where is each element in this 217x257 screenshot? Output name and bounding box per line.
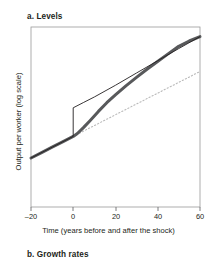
x-tick-label-20: 20 <box>101 212 131 221</box>
plot-frame <box>31 27 200 207</box>
y-axis-label: Output per worker (log scale) <box>14 42 23 202</box>
x-axis-label: Time (years before and after the shock) <box>0 226 217 235</box>
next-panel-title: b. Growth rates <box>27 250 89 257</box>
chart-figure: a. Levels Output per worker (log scale) … <box>0 0 217 257</box>
x-tick-label-40: 40 <box>143 212 173 221</box>
x-tick-label-minus20: –20 <box>16 212 46 221</box>
x-tick-label-0: 0 <box>58 212 88 221</box>
x-tick-label-60: 60 <box>185 212 215 221</box>
x-axis-ticks <box>31 207 200 211</box>
